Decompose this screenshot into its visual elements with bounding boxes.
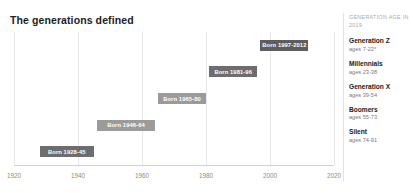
x-tick-label: 2020 — [327, 172, 341, 179]
legend-item-ages: ages 7-22* — [349, 46, 411, 54]
gridline — [142, 32, 143, 165]
bar-boomers[interactable]: Born 1946-64 — [97, 120, 155, 131]
bar-silent[interactable]: Born 1928-45 — [40, 146, 94, 157]
gridline — [270, 32, 271, 165]
bar-generation-x[interactable]: Born 1965-80 — [158, 93, 206, 104]
gridline — [14, 32, 15, 165]
x-tick-label: 1920 — [7, 172, 21, 179]
gridline — [334, 32, 335, 165]
bar-generation-z[interactable]: Born 1997-2012 — [260, 40, 308, 51]
legend-item-ages: ages 74-91 — [349, 137, 411, 145]
legend-item-name: Silent — [349, 128, 411, 137]
legend-header: GENERATION AGE IN 2019 — [349, 13, 411, 29]
bar-millennials[interactable]: Born 1981-96 — [209, 66, 257, 77]
page-title: The generations defined — [10, 14, 134, 26]
plot-area: Born 1997-2012Born 1981-96Born 1965-80Bo… — [14, 32, 334, 165]
x-axis-line — [14, 165, 334, 166]
legend-item-name: Millennials — [349, 60, 411, 69]
legend-item-name: Boomers — [349, 106, 411, 115]
gridline — [206, 32, 207, 165]
legend-item-name: Generation Z — [349, 37, 411, 46]
legend-item[interactable]: Boomersages 55-73 — [349, 106, 411, 123]
legend-item[interactable]: Generation Xages 39-54 — [349, 83, 411, 100]
x-tick-label: 1940 — [71, 172, 85, 179]
x-tick-label: 2000 — [263, 172, 277, 179]
legend-sidebar: GENERATION AGE IN 2019 Generation Zages … — [343, 13, 411, 181]
legend-item[interactable]: Silentages 74-91 — [349, 128, 411, 145]
legend-item-ages: ages 39-54 — [349, 92, 411, 100]
legend-item-ages: ages 55-73 — [349, 114, 411, 122]
legend-item-list: Generation Zages 7-22*Millennialsages 23… — [349, 37, 411, 145]
legend-item-name: Generation X — [349, 83, 411, 92]
gridline — [78, 32, 79, 165]
legend-item[interactable]: Millennialsages 23-38 — [349, 60, 411, 77]
chart-root: The generations defined Born 1997-2012Bo… — [0, 0, 413, 193]
legend-item-ages: ages 23-38 — [349, 69, 411, 77]
legend-item[interactable]: Generation Zages 7-22* — [349, 37, 411, 54]
x-tick-label: 1980 — [199, 172, 213, 179]
x-tick-label: 1960 — [135, 172, 149, 179]
